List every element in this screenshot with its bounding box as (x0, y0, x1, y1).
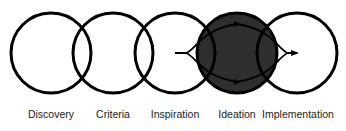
discovery-circle (11, 13, 91, 93)
stage-label-inspiration: Inspiration (151, 108, 199, 120)
arrowhead-right-icon (291, 50, 299, 56)
stage-label-discovery: Discovery (28, 108, 74, 120)
stage-label-implementation: Implementation (262, 108, 334, 120)
stage-label-ideation: Ideation (218, 108, 255, 120)
criteria-circle (73, 13, 153, 93)
stage-label-criteria: Criteria (96, 108, 130, 120)
